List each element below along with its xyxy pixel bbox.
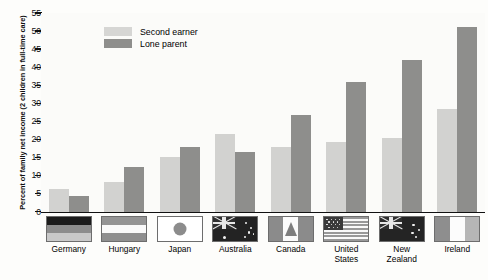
country-label: Australia xyxy=(219,245,252,255)
star-icon xyxy=(245,222,247,224)
y-axis-tick-label: 45 xyxy=(8,44,41,54)
star-icon xyxy=(253,233,255,235)
bar-lone-parent[interactable] xyxy=(69,196,89,211)
y-axis-tick-label: 40 xyxy=(8,62,41,72)
bar-group xyxy=(41,13,97,212)
sun-disc-icon xyxy=(173,223,186,236)
country-axis-item: Canada xyxy=(263,216,319,278)
hungary-flag xyxy=(101,216,147,242)
bar-lone-parent[interactable] xyxy=(457,27,477,211)
flag-band xyxy=(102,233,146,241)
star-icon xyxy=(339,219,340,220)
stars-canton xyxy=(324,217,342,230)
bar-lone-parent[interactable] xyxy=(291,115,311,211)
bar-second-earner[interactable] xyxy=(160,157,180,211)
bar-lone-parent[interactable] xyxy=(346,82,366,212)
y-axis-tick-label: 30 xyxy=(8,98,41,108)
country-axis-item: Ireland xyxy=(430,216,486,278)
flag-stripe xyxy=(324,235,368,237)
star-icon xyxy=(223,236,226,239)
flag-band xyxy=(435,217,450,241)
bar-group xyxy=(374,13,430,212)
star-icon xyxy=(331,224,332,225)
flag-band xyxy=(298,217,313,241)
ireland-flag xyxy=(434,216,480,242)
star-icon xyxy=(335,219,336,220)
japan-flag xyxy=(157,216,203,242)
star-icon xyxy=(333,227,334,228)
legend-swatch-icon-second-earner xyxy=(104,27,132,36)
star-icon xyxy=(248,231,250,233)
flag-band xyxy=(450,217,465,241)
country-label: Hungary xyxy=(108,245,140,255)
canada-flag xyxy=(268,216,314,242)
united-states-flag xyxy=(323,216,369,242)
star-icon xyxy=(250,227,252,229)
country-axis-item: Australia xyxy=(208,216,264,278)
country-axis-item: Hungary xyxy=(97,216,153,278)
y-axis-tick-label: 5 xyxy=(8,188,41,198)
y-axis-tick-label: 35 xyxy=(8,80,41,90)
y-axis-tick-label: 10 xyxy=(8,170,41,180)
flag-stripe xyxy=(324,232,368,234)
flag-stripe xyxy=(324,239,368,241)
flag-band xyxy=(47,233,91,241)
star-icon xyxy=(326,224,327,225)
country-label: Germany xyxy=(52,245,86,255)
star-icon xyxy=(415,236,417,238)
y-axis-tick-label: 0 xyxy=(8,207,41,217)
maple-leaf-icon xyxy=(285,222,297,236)
bar-group xyxy=(208,13,264,212)
country-label: Japan xyxy=(168,245,191,255)
star-icon xyxy=(418,229,420,231)
bar-second-earner[interactable] xyxy=(215,134,235,212)
country-axis-item: New Zealand xyxy=(374,216,430,278)
star-icon xyxy=(412,224,415,227)
flag-band xyxy=(47,225,91,233)
y-axis-tick-label: 55 xyxy=(8,8,41,18)
bar-group xyxy=(263,13,319,212)
flag-band xyxy=(47,217,91,225)
bar-chart: Percent of family net income (2 children… xyxy=(0,0,488,280)
country-axis-item: Germany xyxy=(41,216,97,278)
star-icon xyxy=(328,227,329,228)
y-axis-tick-label: 20 xyxy=(8,134,41,144)
bar-second-earner[interactable] xyxy=(326,142,346,211)
bar-lone-parent[interactable] xyxy=(402,60,422,211)
star-icon xyxy=(335,224,336,225)
bar-lone-parent[interactable] xyxy=(180,147,200,212)
star-icon xyxy=(328,221,329,222)
bar-lone-parent[interactable] xyxy=(124,167,144,211)
country-label: Canada xyxy=(276,245,305,255)
country-label: Ireland xyxy=(444,245,470,255)
bar-second-earner[interactable] xyxy=(49,189,69,212)
bar-second-earner[interactable] xyxy=(437,109,457,211)
chart-legend: Second earner Lone parent xyxy=(104,26,198,50)
country-axis-item: United States xyxy=(319,216,375,278)
bar-second-earner[interactable] xyxy=(104,182,124,212)
country-label: United States xyxy=(334,245,358,264)
union-jack-canton xyxy=(213,217,235,229)
flag-band xyxy=(465,217,480,241)
bar-second-earner[interactable] xyxy=(382,138,402,212)
y-axis-tick-label: 15 xyxy=(8,152,41,162)
country-axis-item: Japan xyxy=(152,216,208,278)
star-icon xyxy=(244,236,246,238)
star-icon xyxy=(337,221,338,222)
bar-second-earner[interactable] xyxy=(271,147,291,211)
legend-swatch-icon-lone-parent xyxy=(104,39,132,48)
germany-flag xyxy=(46,216,92,242)
y-axis-tick-label: 50 xyxy=(8,26,41,36)
legend-label-second-earner: Second earner xyxy=(140,27,198,37)
flag-band xyxy=(102,225,146,233)
new-zealand-flag xyxy=(379,216,425,242)
flag-band xyxy=(269,217,284,241)
bar-group xyxy=(430,13,486,212)
y-axis-tick-label: 25 xyxy=(8,116,41,126)
legend-item-second-earner: Second earner xyxy=(104,26,198,37)
bar-lone-parent[interactable] xyxy=(235,152,255,212)
star-icon xyxy=(326,219,327,220)
star-icon xyxy=(339,224,340,225)
flag-band xyxy=(102,217,146,225)
australia-flag xyxy=(212,216,258,242)
